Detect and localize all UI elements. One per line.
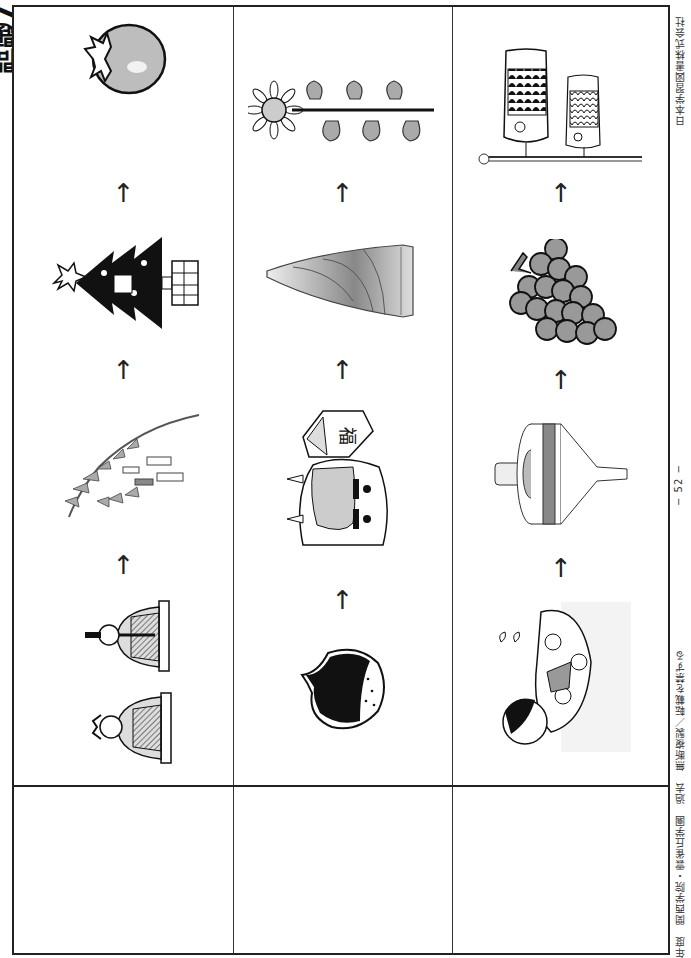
spinning-top-icon <box>491 419 631 529</box>
arrow-up-icon: ↑ <box>332 357 354 383</box>
arrow-up-icon: ↑ <box>332 587 354 613</box>
picture-chestnut <box>298 643 388 733</box>
sequence-column-1: ↑ ↑ <box>14 7 233 787</box>
arrow-up-icon: ↑ <box>113 357 135 383</box>
picture-grapes <box>501 239 621 349</box>
arrow-up-icon: ↑ <box>332 180 354 206</box>
arrow-up-icon: ↑ <box>113 552 135 578</box>
picture-koinobori <box>476 47 646 167</box>
answer-cell-2[interactable] <box>233 789 452 953</box>
picture-spinning-top <box>491 419 631 529</box>
page-number: − 52 − <box>673 455 689 515</box>
koinobori-icon <box>476 47 646 167</box>
answer-cell-1[interactable] <box>14 789 233 953</box>
tanabata-bamboo-icon <box>39 407 209 527</box>
sunflower-icon <box>248 77 438 147</box>
christmas-tree-icon <box>44 233 204 333</box>
picture-hina-dolls <box>69 597 179 767</box>
odairi-sama <box>85 601 169 671</box>
publisher-name: 日本学習図書株式会社 <box>673 6 689 126</box>
persimmon-icon <box>79 19 169 99</box>
copyright-notice: 年度 関西学院・雲雀丘学園 過去 無断複製／転載を禁ずる <box>673 570 689 958</box>
picture-bamboo-shoot <box>263 241 423 321</box>
arrow-up-icon: ↑ <box>550 555 572 581</box>
hina-dolls-icon <box>69 597 179 767</box>
picture-persimmon <box>79 19 169 99</box>
chestnut-icon <box>298 643 388 733</box>
arrow-up-icon: ↑ <box>550 367 572 393</box>
bamboo-shoot-icon <box>263 241 423 321</box>
answer-cell-3[interactable] <box>452 789 670 953</box>
picture-tanabata-bamboo <box>39 407 209 527</box>
sequence-column-3: ↑ ↑ ↑ <box>452 7 670 787</box>
grapes-icon <box>501 239 621 349</box>
question-title: 問題7 <box>0 4 12 74</box>
ohina-sama <box>93 693 171 763</box>
picture-christmas-tree <box>44 233 204 333</box>
picture-sunflower-morning-glory <box>248 77 438 147</box>
sequence-column-2: ↑ ↑ 福 <box>233 7 452 787</box>
arrow-up-icon: ↑ <box>113 180 135 206</box>
svg-text:福: 福 <box>337 427 358 445</box>
girl-swim-ring-icon <box>491 602 631 762</box>
picture-oni-setsubun: 福 <box>283 405 403 555</box>
arrow-up-icon: ↑ <box>550 180 572 206</box>
title-strip: 問題7 <box>0 0 12 130</box>
question-table: ↑ ↑ <box>12 5 670 955</box>
picture-girl-swim-ring <box>491 602 631 762</box>
oni-mask-icon: 福 <box>283 405 403 555</box>
